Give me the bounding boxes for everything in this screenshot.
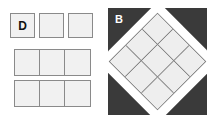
panel-d-bottom-strip xyxy=(14,80,91,107)
panel-d-cell-2-1[interactable] xyxy=(40,81,65,106)
figure-root: D xyxy=(0,0,215,131)
panel-d-cell-0-1[interactable] xyxy=(39,13,64,38)
panel-d-top-row: D xyxy=(10,13,93,38)
panel-d-cell-2-0[interactable] xyxy=(15,81,40,106)
panel-b-label: B xyxy=(115,14,123,25)
panel-d-middle-row xyxy=(14,49,91,76)
panel-d-cell-1-2[interactable] xyxy=(65,50,90,75)
panel-d: D xyxy=(0,0,104,131)
panel-d-cell-0-0[interactable]: D xyxy=(10,13,35,38)
panel-d-bottom-row xyxy=(14,80,91,107)
panel-d-label: D xyxy=(18,20,27,32)
panel-d-cell-1-1[interactable] xyxy=(40,50,65,75)
panel-d-cell-0-2[interactable] xyxy=(68,13,93,38)
panel-b: B xyxy=(108,8,207,115)
panel-d-cell-2-2[interactable] xyxy=(65,81,90,106)
panel-d-middle-strip xyxy=(14,49,91,76)
panel-b-diamond-grid xyxy=(109,13,207,111)
panel-d-cell-1-0[interactable] xyxy=(15,50,40,75)
